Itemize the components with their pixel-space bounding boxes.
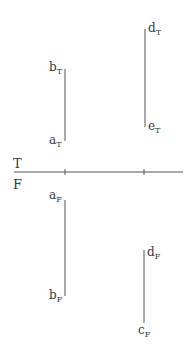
point-label-b-T: bT xyxy=(49,60,63,76)
projection-diagram: TFbTaTdTeTaFbFdFcF xyxy=(0,0,194,353)
point-label-b-F: bF xyxy=(49,288,63,304)
top-plane-label: T xyxy=(13,156,22,171)
point-label-a-T: aT xyxy=(49,133,62,149)
point-label-a-F: aF xyxy=(49,188,62,204)
point-label-d-F: dF xyxy=(147,245,161,261)
point-label-c-F: cF xyxy=(138,323,151,339)
diagram-svg: TFbTaTdTeTaFbFdFcF xyxy=(0,0,194,353)
point-label-d-T: dT xyxy=(148,21,162,37)
front-plane-label: F xyxy=(13,177,22,192)
point-label-e-T: eT xyxy=(148,119,161,135)
